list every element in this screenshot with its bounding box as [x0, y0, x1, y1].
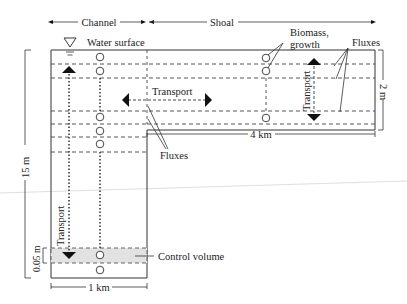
- channel-shoal-diagram: Channel Shoal Water surface Transport: [0, 0, 407, 304]
- channel-width-label: 1 km: [88, 282, 109, 293]
- fluxes-bottom-label: Fluxes: [160, 150, 188, 161]
- control-volume-label: Control volume: [158, 251, 225, 262]
- control-volume-thickness-dimension: [43, 248, 47, 263]
- shoal-depth-label: 2 m: [378, 84, 389, 100]
- fluxes-top-leader-lines: [334, 48, 348, 112]
- layer-lines: [51, 64, 375, 152]
- scan-artifact-line: [0, 181, 407, 193]
- control-volume-thickness-label: 0.05 m: [32, 245, 42, 272]
- biomass-node: [96, 67, 104, 75]
- channel-depth-label: 15 m: [20, 157, 31, 178]
- biomass-node: [96, 266, 104, 274]
- channel-label: Channel: [82, 17, 117, 28]
- shoal-length-label: 4 km: [250, 129, 271, 140]
- fluxes-bottom-leader-lines: [148, 106, 168, 149]
- biomass-node: [96, 140, 104, 148]
- biomass-label-line1: Biomass,: [290, 27, 329, 38]
- up-arrow-icon: [62, 66, 76, 73]
- biomass-node: [96, 251, 104, 259]
- up-arrow-icon: [307, 58, 321, 65]
- shoal-transport-label: Transport: [301, 70, 312, 111]
- biomass-node: [96, 53, 104, 61]
- fluxes-top-label: Fluxes: [352, 37, 380, 48]
- biomass-label-line2: growth: [290, 39, 320, 50]
- biomass-node: [96, 127, 104, 135]
- down-arrow-icon: [307, 114, 321, 121]
- channel-transport-label: Transport: [55, 205, 66, 246]
- water-surface-icon: [64, 38, 76, 55]
- water-surface-label: Water surface: [87, 37, 145, 48]
- channel-biomass-column: [96, 53, 104, 274]
- shoal-label: Shoal: [210, 17, 234, 28]
- biomass-node: [96, 113, 104, 121]
- horizontal-transport-label: Transport: [152, 86, 193, 97]
